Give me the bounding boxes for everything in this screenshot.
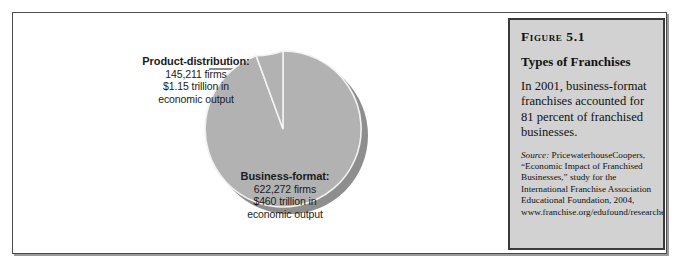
pie-label-product-distribution: Product-distribution: 145,211 firms $1.1… [121,55,271,105]
pie-label-business-format-firms: 622,272 firms [254,183,316,195]
figure-source-word: Source: [521,150,549,160]
figure-caption-panel: Figure 5.1 Types of Franchises In 2001, … [508,18,665,250]
figure-source: Source: PricewaterhouseCoopers, “Economi… [521,150,653,218]
pie-label-business-format-title: Business-format: [210,170,360,183]
pie-label-business-format-output-1: $460 trillion in [253,195,316,207]
pie-label-product-distribution-output-1: $1.15 trillion in [163,80,229,92]
pie-label-product-distribution-firms: 145,211 firms [165,68,227,80]
pie-label-product-distribution-output-2: economic output [158,93,234,105]
figure-frame: Product-distribution: 145,211 firms $1.1… [12,12,667,254]
chart-panel: Product-distribution: 145,211 firms $1.1… [13,13,509,253]
pie-label-product-distribution-title: Product-distribution: [121,55,271,68]
figure-number: Figure 5.1 [521,29,653,45]
pie-label-business-format: Business-format: 622,272 firms $460 tril… [210,170,360,220]
figure-title: Types of Franchises [521,54,653,70]
figure-description: In 2001, business-format franchises acco… [521,79,653,141]
pie-label-business-format-output-2: economic output [247,208,323,220]
